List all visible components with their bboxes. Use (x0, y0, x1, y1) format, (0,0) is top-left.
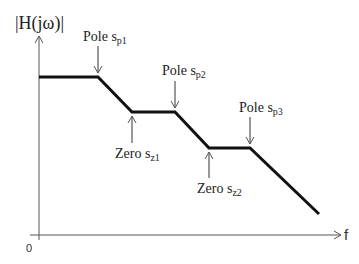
x-axis-label: f (344, 227, 348, 242)
zero-sz2-label: Zero sz2 (197, 182, 242, 196)
bode-diagram-canvas (0, 0, 359, 264)
zero-sz1-label: Zero sz1 (115, 147, 160, 161)
y-axis-label: |H(jω)| (15, 14, 64, 32)
origin-label: 0 (26, 243, 32, 254)
pole-sp2-label: Pole sp2 (162, 64, 206, 78)
magnitude-curve (39, 77, 319, 214)
pole-sp3-label: Pole sp3 (239, 101, 283, 115)
pole-sp1-label: Pole sp1 (83, 30, 127, 44)
